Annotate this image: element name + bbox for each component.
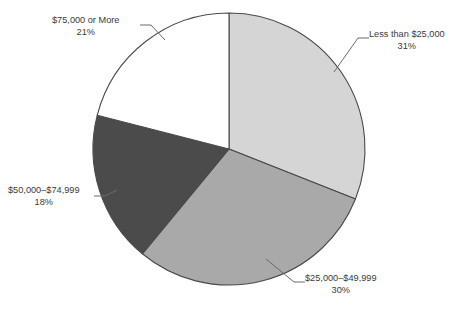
slice-label-75000-or-more: $75,000 or More 21% xyxy=(52,14,119,38)
slice-label-25000-49999: $25,000–$49,999 30% xyxy=(305,272,377,296)
slice-label-name: $50,000–$74,999 xyxy=(8,184,80,196)
slice-label-name: $25,000–$49,999 xyxy=(305,272,377,284)
pie-chart: Less than $25,000 31% $25,000–$49,999 30… xyxy=(0,0,472,316)
slice-label-percent: 30% xyxy=(305,284,377,296)
slice-label-less-than-25000: Less than $25,000 31% xyxy=(369,28,445,52)
slice-label-percent: 21% xyxy=(52,26,119,38)
slice-label-percent: 18% xyxy=(8,196,80,208)
slice-label-name: $75,000 or More xyxy=(52,14,119,26)
slice-label-name: Less than $25,000 xyxy=(369,28,445,40)
slice-label-percent: 31% xyxy=(369,40,445,52)
slice-label-50000-74999: $50,000–$74,999 18% xyxy=(8,184,80,208)
leader-line-less-than-25000 xyxy=(334,38,369,72)
